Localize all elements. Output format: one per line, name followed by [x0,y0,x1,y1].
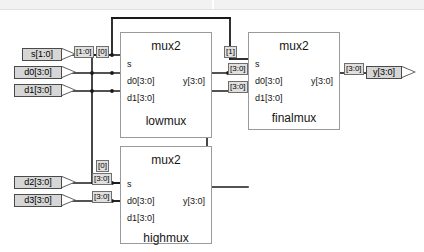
pin-d0-arrow-inner [62,67,74,77]
highmux-port-y: y[3:0] [183,196,205,206]
netlabel-s-bit0-highmux: [0] [96,160,109,172]
netlabel-s-bit0-lowmux: [0] [96,46,109,58]
lowmux-type-label: mux2 [121,39,211,53]
lowmux-instance-label: lowmux [121,114,211,128]
pin-s-label: s[1:0] [22,48,62,61]
schematic-canvas: s[1:0] d0[3:0] d1[3:0] d2[3:0] d3[3:0] y… [0,0,424,252]
pin-d2-label: d2[3:0] [14,176,62,189]
highmux-port-d0: d0[3:0] [127,196,155,206]
netlabel-s-bus: [1:0] [74,46,94,58]
netlabel-d3-bus: [3:0] [92,191,112,203]
block-highmux[interactable]: mux2 s d0[3:0] d1[3:0] y[3:0] highmux [120,146,212,244]
junction-d1-b [90,89,94,93]
lowmux-port-d1: d1[3:0] [127,93,155,103]
finalmux-port-d1: d1[3:0] [255,93,283,103]
pin-d1-arrow-inner [62,85,74,95]
block-lowmux[interactable]: mux2 s d0[3:0] d1[3:0] y[3:0] lowmux [120,32,212,138]
finalmux-port-d0: d0[3:0] [255,76,283,86]
pin-d2-arrow-inner [62,177,74,187]
netlabel-d2-bus: [3:0] [92,173,112,185]
netlabel-s-bit1-finalmux: [1] [224,46,237,58]
highmux-type-label: mux2 [121,153,211,167]
junction-d1 [110,89,114,93]
finalmux-port-y: y[3:0] [311,76,333,86]
netlabel-finalmux-d1: [3:0] [228,81,248,93]
junction-d0-b [90,71,94,75]
highmux-port-d1: d1[3:0] [127,213,155,223]
pin-y-label: y[3:0] [366,66,402,79]
highmux-instance-label: highmux [121,231,211,245]
lowmux-port-y: y[3:0] [183,76,205,86]
pin-d3-label: d3[3:0] [14,194,62,207]
finalmux-type-label: mux2 [249,39,339,53]
junction-d0 [110,71,114,75]
pin-s-arrow-inner [62,49,74,59]
netlabel-finalmux-y: [3:0] [344,63,364,75]
wire-layer [0,0,424,252]
pin-d3-arrow-inner [62,195,74,205]
block-finalmux[interactable]: mux2 s d0[3:0] d1[3:0] y[3:0] finalmux [248,32,340,130]
lowmux-port-d0: d0[3:0] [127,76,155,86]
lowmux-port-s: s [127,59,132,69]
finalmux-instance-label: finalmux [249,111,339,125]
highmux-port-s: s [127,179,132,189]
junction-s1 [110,53,114,57]
netlabel-finalmux-d0: [3:0] [228,63,248,75]
finalmux-port-s: s [255,59,260,69]
pin-d0-label: d0[3:0] [14,66,62,79]
pin-d1-label: d1[3:0] [14,84,62,97]
pin-y-arrow-inner [402,67,414,77]
